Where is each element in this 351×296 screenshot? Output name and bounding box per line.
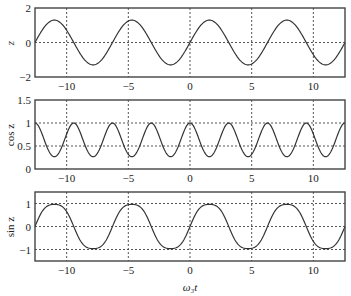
y-tick-label: 0.5: [17, 140, 31, 152]
y-tick-label: 1: [26, 117, 32, 129]
ylabel-z: z: [4, 40, 16, 46]
x-tick-label: 5: [249, 264, 255, 276]
x-tick-label: −10: [58, 80, 76, 92]
x-tick-label: 10: [308, 264, 320, 276]
x-tick-label: −10: [58, 264, 76, 276]
y-tick-label: 0: [26, 37, 32, 49]
panel-cos-z: −10−5051000.511.5: [17, 94, 345, 184]
x-tick-label: 0: [187, 264, 193, 276]
y-tick-label: 1.5: [17, 94, 31, 106]
ylabel-cos-z: cos z: [4, 124, 16, 146]
y-tick-label: 0: [26, 163, 32, 175]
x-tick-label: −5: [122, 264, 134, 276]
y-tick-label: 0: [26, 221, 32, 233]
x-tick-label: −10: [58, 172, 76, 184]
xlabel-omega-t: ω₃t: [183, 281, 199, 293]
y-tick-label: −2: [19, 71, 31, 83]
x-tick-label: 5: [249, 80, 255, 92]
panel-z: −10−50510−202: [19, 2, 345, 92]
x-tick-label: −5: [122, 172, 134, 184]
x-tick-label: 10: [308, 172, 320, 184]
x-tick-label: 0: [187, 80, 193, 92]
y-tick-label: 1: [26, 198, 32, 210]
ylabel-sin-z: sin z: [4, 217, 16, 238]
y-tick-label: 2: [26, 2, 32, 14]
series-line: [35, 20, 345, 65]
x-tick-label: −5: [122, 80, 134, 92]
x-tick-label: 0: [187, 172, 193, 184]
panel-sin-z: −10−50510−101: [19, 192, 345, 276]
chart-figure: −10−50510−202 −10−5051000.511.5 −10−5051…: [0, 0, 351, 296]
series-line: [35, 204, 345, 248]
y-tick-label: −1: [19, 244, 31, 256]
x-tick-label: 10: [308, 80, 320, 92]
x-tick-label: 5: [249, 172, 255, 184]
